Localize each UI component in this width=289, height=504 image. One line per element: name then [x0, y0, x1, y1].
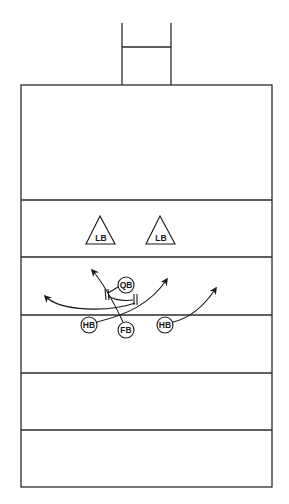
route-hb2-out	[173, 288, 216, 322]
linebacker-lb1: LB	[86, 216, 115, 244]
player-hb2: HB	[157, 317, 173, 333]
lb1-label: LB	[95, 233, 106, 243]
player-qb: QB	[118, 277, 134, 293]
field	[21, 85, 272, 487]
player-fb: FB	[118, 322, 134, 338]
route-sweep-left	[45, 296, 135, 309]
route-fb-up	[92, 270, 123, 322]
goalpost	[122, 23, 171, 85]
play-diagram: LB LB	[0, 0, 289, 504]
hb2-label: HB	[159, 320, 171, 330]
fb-label: FB	[120, 325, 131, 335]
qb-link-left	[108, 287, 118, 293]
play-diagram-canvas: LB LB	[0, 0, 289, 504]
hb1-label: HB	[83, 320, 95, 330]
block-mark-right	[134, 294, 137, 305]
lb2-label: LB	[155, 233, 166, 243]
field-boundary	[21, 85, 272, 487]
qb-label: QB	[120, 280, 133, 290]
player-hb1: HB	[81, 317, 97, 333]
linebacker-lb2: LB	[146, 216, 175, 244]
